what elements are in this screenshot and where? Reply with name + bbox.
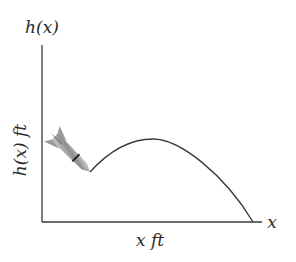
x-axis-end-label: x	[267, 212, 277, 232]
y-axis-top-label: h(x)	[25, 17, 59, 37]
rocket-icon	[43, 125, 98, 180]
y-axis-label: h(x) ft	[10, 124, 30, 176]
trajectory-curve	[90, 139, 253, 222]
x-axis-label: x ft	[136, 230, 164, 250]
trajectory-diagram: h(x) h(x) ft x x ft	[0, 0, 296, 262]
